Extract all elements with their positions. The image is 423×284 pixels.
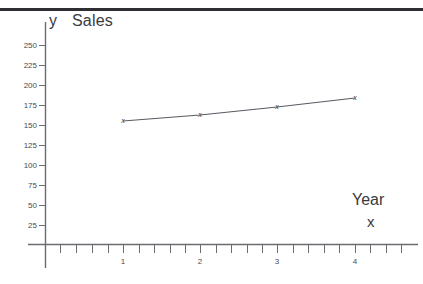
y-tick-label: 250 (15, 42, 37, 50)
x-axis-ticks (61, 245, 402, 254)
data-point-marker: x (351, 94, 359, 102)
y-tick-label: 150 (15, 122, 37, 130)
x-tick-label: 1 (117, 258, 129, 266)
data-point-marker: x (273, 103, 281, 111)
sales-line-chart: 250 225 200 175 150 125 100 75 50 25 1 2… (0, 0, 423, 284)
y-tick-label: 50 (15, 202, 37, 210)
x-tick-label: 4 (349, 258, 361, 266)
chart-title: Sales (72, 13, 113, 29)
y-tick-label: 225 (15, 62, 37, 70)
x-tick-label: 3 (271, 258, 283, 266)
x-axis-symbol-label: x (367, 214, 375, 229)
x-axis-name-label: Year (352, 192, 384, 208)
y-tick-label: 200 (15, 82, 37, 90)
y-axis-symbol-label: y (49, 13, 57, 29)
chart-page: 250 225 200 175 150 125 100 75 50 25 1 2… (0, 0, 423, 284)
y-tick-label: 125 (15, 142, 37, 150)
y-axis-ticks (39, 46, 46, 226)
y-tick-label: 100 (15, 162, 37, 170)
x-tick-label: 2 (194, 258, 206, 266)
y-tick-label: 75 (15, 182, 37, 190)
chart-canvas (0, 0, 423, 284)
axes-group (28, 22, 418, 268)
data-point-marker: x (196, 111, 204, 119)
data-point-marker: x (119, 117, 127, 125)
sales-series-line (123, 98, 355, 121)
y-tick-label: 25 (15, 222, 37, 230)
y-tick-label: 175 (15, 102, 37, 110)
